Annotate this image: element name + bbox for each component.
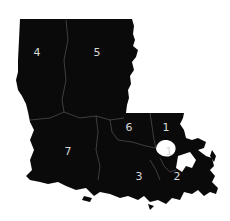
district-label-7: 7 (65, 145, 72, 158)
delta-island (82, 196, 92, 202)
state-outline (16, 19, 218, 204)
district-label-6: 6 (126, 121, 133, 134)
district-label-2: 2 (174, 170, 181, 183)
district-label-4: 4 (34, 46, 41, 59)
louisiana-district-map: 4 5 6 1 1 7 3 2 (0, 0, 230, 221)
district-label-1-north: 1 (163, 121, 170, 134)
district-label-3: 3 (136, 170, 143, 183)
delta-island (148, 204, 154, 210)
district-label-1-south: 1 (166, 145, 173, 158)
district-label-5: 5 (94, 46, 101, 59)
